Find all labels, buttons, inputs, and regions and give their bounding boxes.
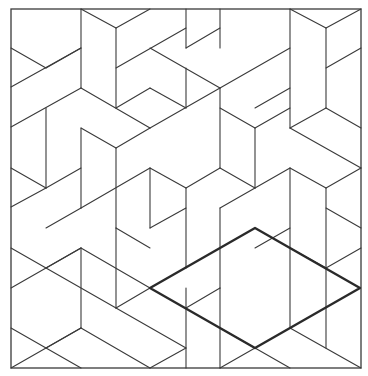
lattice-segment — [220, 188, 255, 208]
lattice-segment — [255, 168, 290, 188]
lattice-segment — [46, 208, 81, 228]
lattice-segment — [150, 48, 220, 88]
lattice-segment — [220, 108, 255, 128]
lattice-segment — [150, 208, 186, 228]
lattice-segment — [81, 128, 116, 148]
lattice-segment — [326, 108, 361, 128]
lattice-segment — [11, 248, 46, 268]
lattice-segment — [326, 9, 361, 28]
lattice-segment — [46, 348, 81, 368]
lattice-segment — [255, 108, 290, 128]
lattice-segment — [326, 168, 361, 188]
lattice-segment — [116, 308, 186, 348]
lattice-segment — [186, 168, 220, 188]
lattice-segment — [116, 228, 150, 248]
lattice-segment — [290, 128, 361, 168]
lattice-segment — [11, 328, 46, 348]
lattice-segment — [11, 188, 46, 207]
lattice-segment — [150, 168, 186, 188]
lattice-segment — [326, 48, 361, 68]
lattice-segment — [81, 9, 116, 28]
lattice-segment — [326, 248, 361, 268]
lattice-segment — [255, 348, 290, 368]
lattice-lines — [11, 9, 361, 368]
lattice-segment — [150, 88, 186, 108]
lattice-segment — [116, 9, 150, 28]
lattice-segment — [116, 88, 150, 108]
woven-lattice-diagram — [0, 0, 368, 376]
lattice-segment — [290, 108, 326, 128]
lattice-segment — [81, 328, 150, 368]
lattice-segment — [116, 128, 150, 148]
lattice-segment — [11, 168, 46, 188]
lattice-segment — [220, 168, 255, 188]
lattice-segment — [186, 28, 220, 48]
lattice-segment — [290, 168, 326, 188]
lattice-segment — [326, 208, 361, 228]
lattice-segment — [186, 288, 220, 308]
lattice-segment — [150, 348, 186, 368]
lattice-segment — [255, 88, 290, 108]
lattice-segment — [11, 48, 46, 68]
lattice-segment — [46, 168, 81, 188]
lattice-segment — [290, 9, 326, 28]
lattice-segment — [220, 348, 255, 368]
lattice-segment — [116, 288, 150, 308]
highlighted-unit-cell — [150, 228, 360, 348]
lattice-segment — [220, 48, 290, 88]
